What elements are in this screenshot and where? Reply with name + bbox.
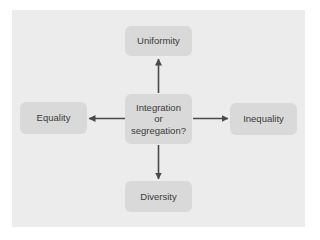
node-uniformity-label: Uniformity bbox=[137, 35, 180, 47]
node-equality-label: Equality bbox=[37, 112, 71, 124]
node-inequality-label: Inequality bbox=[243, 113, 284, 125]
center-line-1: Integration bbox=[136, 102, 181, 114]
node-diversity: Diversity bbox=[125, 181, 192, 212]
node-inequality: Inequality bbox=[230, 103, 297, 135]
center-line-2: or bbox=[154, 113, 162, 125]
center-line-3: segregation? bbox=[131, 125, 186, 137]
node-equality: Equality bbox=[20, 102, 87, 134]
node-diversity-label: Diversity bbox=[140, 191, 176, 203]
node-uniformity: Uniformity bbox=[125, 26, 192, 56]
node-center-question: Integration or segregation? bbox=[125, 94, 192, 144]
